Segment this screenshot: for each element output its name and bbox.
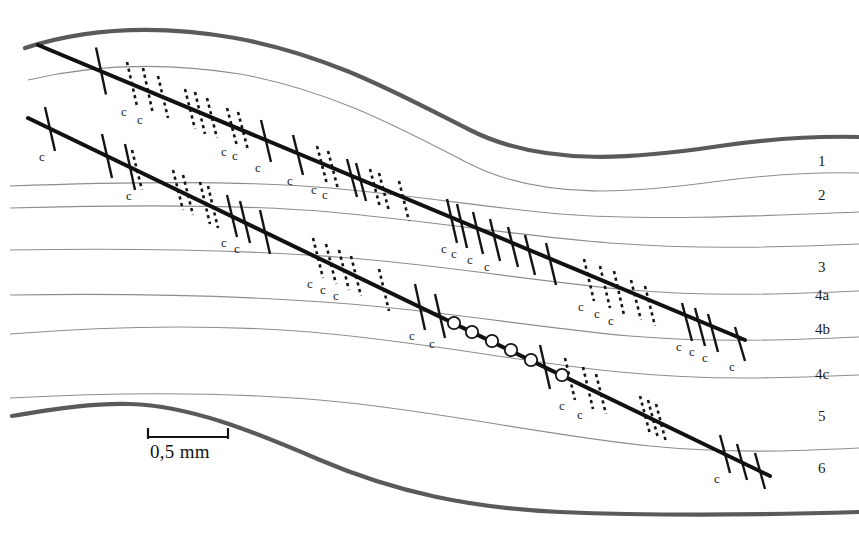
vein-c-annotation: c	[320, 282, 326, 297]
vein-c-annotation: c	[409, 328, 415, 343]
vein-c-annotation: c	[608, 313, 614, 328]
layer-label-4a: 4a	[815, 287, 829, 304]
vein-c-annotation: c	[255, 160, 261, 175]
scale-bar-label: 0,5 mm	[150, 441, 210, 463]
vein-c-annotation: c	[221, 235, 227, 250]
vein-circle-marker	[505, 344, 517, 356]
vein-c-annotation: c	[729, 359, 735, 374]
vein-tick-solid	[682, 303, 692, 341]
scale-bar	[148, 428, 228, 439]
vein-circle-marker	[466, 326, 478, 338]
vein-c-annotation: c	[451, 246, 457, 261]
vein-c-annotation: c	[221, 144, 227, 159]
vein-c-annotation: c	[137, 112, 143, 127]
vein-tick-solid	[473, 212, 483, 254]
layer-label-1: 1	[818, 153, 826, 170]
vein-c-annotation: c	[702, 350, 708, 365]
vein-c-annotation: c	[429, 336, 435, 351]
layer-boundary-curve	[10, 249, 859, 294]
layer-label-4c: 4c	[815, 366, 829, 383]
vein-c-annotation: c	[121, 104, 127, 119]
vein-c-annotation: c	[287, 173, 293, 188]
vein-tick-dashed	[584, 259, 594, 301]
layer-label-2: 2	[818, 187, 826, 204]
vein-c-annotation: c	[232, 148, 238, 163]
vein-c-annotation: c	[322, 187, 328, 202]
vein-circle-marker	[448, 317, 460, 329]
vein-line-lower-vein	[28, 118, 770, 476]
vein-c-annotation: c	[333, 288, 339, 303]
vein-c-annotation: c	[676, 339, 682, 354]
vein-c-annotation: c	[39, 149, 45, 164]
vein-c-annotation: c	[559, 398, 565, 413]
vein-tick-solid	[735, 327, 745, 361]
vein-c-annotation: c	[467, 252, 473, 267]
vein-c-annotation: c	[126, 188, 132, 203]
layer-label-4b: 4b	[815, 321, 830, 338]
vein-c-annotation: c	[441, 241, 447, 256]
vein-tick-solid	[546, 243, 556, 285]
vein-tick-dashed	[614, 271, 624, 315]
vein-c-annotation: c	[234, 241, 240, 256]
vein-group-upper-vein: ccccccccccccccccccc	[38, 45, 745, 374]
vein-tick-solid	[490, 219, 500, 261]
cross-section-drawing: ccccccccccccccccccccccccccccccc	[0, 0, 859, 533]
vein-c-annotation: c	[689, 344, 695, 359]
vein-c-annotation: c	[577, 407, 583, 422]
vein-tick-solid	[525, 235, 535, 275]
vein-tick-dashed	[631, 280, 641, 320]
layer-label-6: 6	[818, 460, 826, 477]
figure-canvas: ccccccccccccccccccccccccccccccc 1234a4b4…	[0, 0, 859, 533]
vein-c-annotation: c	[578, 299, 584, 314]
layer-label-5: 5	[818, 408, 826, 425]
vein-tick-solid	[708, 314, 718, 352]
vein-group-lower-vein: cccccccccccc	[28, 107, 770, 489]
vein-c-annotation: c	[307, 276, 313, 291]
vein-circle-marker	[486, 335, 498, 347]
layer-label-3: 3	[818, 259, 826, 276]
vein-circle-marker	[556, 369, 568, 381]
vein-c-annotation: c	[484, 259, 490, 274]
vein-circle-marker	[525, 354, 537, 366]
vein-c-annotation: c	[714, 471, 720, 486]
layer-boundary-curve	[28, 66, 859, 191]
vein-c-annotation: c	[311, 182, 317, 197]
vein-c-annotation: c	[594, 306, 600, 321]
